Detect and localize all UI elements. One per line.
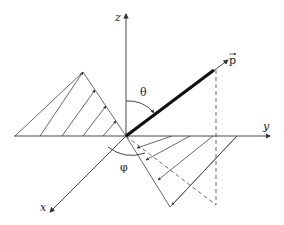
y-axis-label: y (262, 120, 270, 133)
z-axis-label: z (114, 11, 121, 24)
theta-arc (126, 101, 154, 113)
theta-label: θ (140, 86, 147, 99)
upper-wave-plane (15, 72, 126, 136)
phi-label: φ (120, 161, 128, 174)
x-axis-label: x (40, 201, 47, 214)
x-axis (50, 136, 126, 212)
vector-label: p (229, 54, 236, 67)
lower-wave-plane (126, 136, 237, 207)
coordinate-diagram: z y x p θ φ (0, 0, 284, 225)
